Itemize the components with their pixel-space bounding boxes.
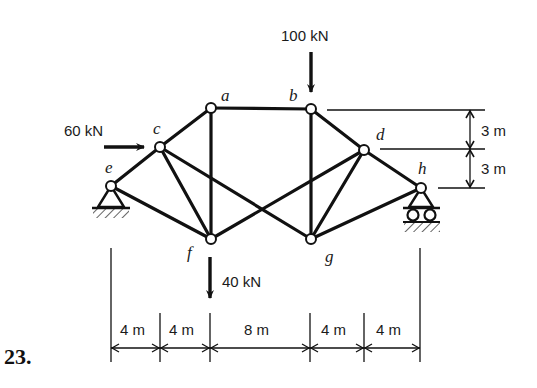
joint-f [206, 234, 216, 244]
member-ca [160, 108, 211, 147]
load-label-40kn: 40 kN [222, 274, 261, 289]
dim-label-horizontal-4: 4 m [321, 322, 346, 337]
joint-h [416, 183, 426, 193]
dim-label-vertical-2: 3 m [481, 161, 506, 176]
joint-g [306, 234, 316, 244]
joint-a [206, 103, 216, 113]
node-label-h: h [418, 160, 427, 177]
dim-label-horizontal-2: 4 m [169, 322, 194, 337]
node-label-d: d [376, 126, 385, 143]
horizontal-dimensions [111, 248, 420, 362]
member-ec [111, 147, 160, 186]
member-dh [364, 150, 421, 188]
dim-label-vertical-1: 3 m [481, 123, 506, 138]
node-label-a: a [221, 87, 230, 104]
node-label-c: c [153, 120, 161, 137]
joint-c [155, 142, 165, 152]
member-ab [211, 108, 311, 109]
problem-number: 23. [4, 346, 32, 368]
dim-label-horizontal-1: 4 m [120, 322, 145, 337]
dim-label-horizontal-5: 4 m [376, 322, 401, 337]
load-label-100kn: 100 kN [281, 28, 329, 43]
node-label-e: e [105, 159, 113, 176]
truss-diagram: a b c d e f g h 60 kN 100 kN 40 kN 3 m 3… [0, 0, 537, 388]
load-label-60kn: 60 kN [64, 123, 103, 138]
node-label-f: f [187, 244, 192, 261]
dim-label-horizontal-3: 8 m [244, 322, 269, 337]
joint-d [359, 145, 369, 155]
joint-e [106, 181, 116, 191]
member-bd [311, 109, 364, 150]
joint-b [306, 104, 316, 114]
node-label-g: g [325, 248, 334, 265]
node-label-b: b [289, 87, 298, 104]
